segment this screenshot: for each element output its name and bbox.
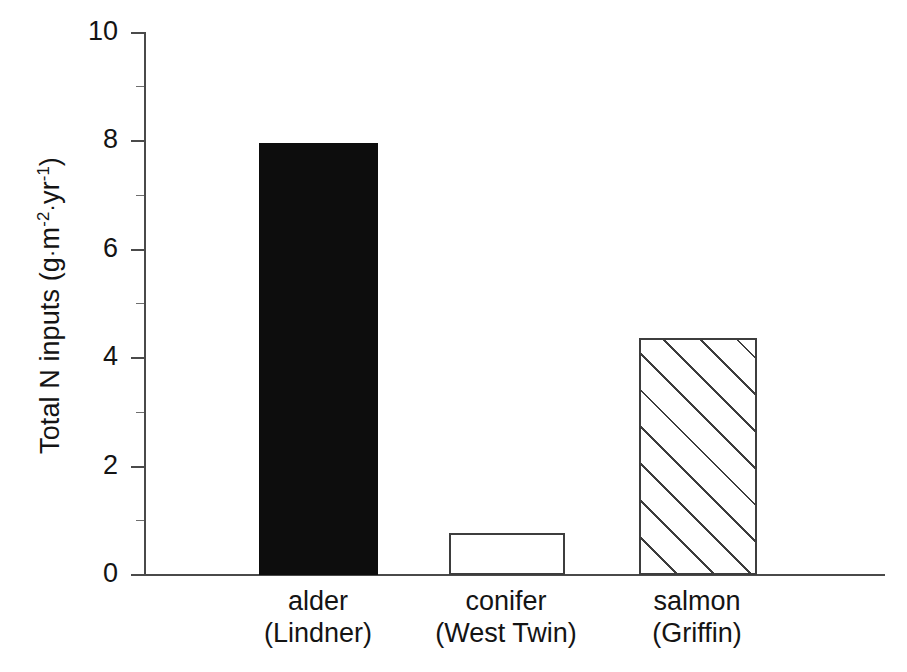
y-axis-title-dot-2: · bbox=[38, 204, 64, 212]
y-tick-minor-9 bbox=[136, 86, 144, 87]
y-axis-title-yr: yr bbox=[35, 181, 65, 204]
bar-chart-figure: Total N inputs (g·m-2·yr-1) 0 2 4 6 8 10… bbox=[0, 0, 907, 672]
x-category-label-salmon: salmon (Griffin) bbox=[567, 586, 827, 650]
y-tick-label-2: 2 bbox=[8, 450, 118, 481]
y-tick-label-10: 10 bbox=[8, 16, 118, 47]
y-tick-major-4 bbox=[131, 357, 144, 359]
x-category-salmon-line2: (Griffin) bbox=[567, 618, 827, 650]
y-tick-label-6: 6 bbox=[8, 233, 118, 264]
y-tick-minor-3 bbox=[136, 412, 144, 413]
y-tick-minor-5 bbox=[136, 303, 144, 304]
y-tick-minor-1 bbox=[136, 520, 144, 521]
x-category-conifer-line1: conifer bbox=[465, 586, 546, 616]
bar-alder bbox=[259, 143, 378, 575]
y-tick-minor-7 bbox=[136, 195, 144, 196]
y-axis-title-yr-exponent: -1 bbox=[34, 166, 53, 181]
y-tick-major-10 bbox=[131, 32, 144, 34]
x-category-salmon-line1: salmon bbox=[653, 586, 740, 616]
y-tick-label-8: 8 bbox=[8, 124, 118, 155]
y-tick-major-0 bbox=[131, 574, 144, 576]
y-axis-title-m-exponent: -2 bbox=[34, 212, 53, 227]
y-tick-label-0: 0 bbox=[8, 558, 118, 589]
y-axis-title-tail: ) bbox=[35, 157, 65, 166]
y-tick-label-4: 4 bbox=[8, 341, 118, 372]
x-category-alder-line1: alder bbox=[288, 586, 348, 616]
y-tick-major-2 bbox=[131, 466, 144, 468]
y-axis-line bbox=[144, 32, 146, 576]
bar-salmon bbox=[639, 338, 757, 575]
y-tick-major-6 bbox=[131, 249, 144, 251]
bar-conifer bbox=[449, 533, 565, 575]
y-tick-major-8 bbox=[131, 140, 144, 142]
bar-salmon-hatch-pattern bbox=[641, 340, 755, 573]
